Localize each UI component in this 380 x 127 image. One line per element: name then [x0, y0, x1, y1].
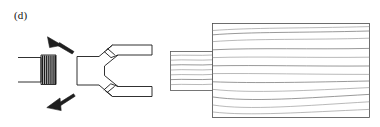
- rod-thread-ridges: [43, 55, 56, 84]
- clevis-upper-joint-facet: [108, 49, 115, 55]
- clevis-outline: [77, 45, 152, 97]
- screw-pointer-upper: [48, 37, 75, 54]
- clevis-fork-part: [77, 45, 152, 97]
- timber-block-part: [213, 24, 370, 118]
- clevis-lower-joint-facet: [107, 86, 115, 92]
- clevis-lower-joint-edge: [105, 91, 112, 97]
- pointer-upper-shaft: [58, 43, 74, 54]
- threaded-rod-part: [18, 55, 56, 85]
- tenon-part: [171, 52, 214, 91]
- screw-pointer-lower: [47, 94, 75, 111]
- technical-illustration: [0, 0, 380, 127]
- figure-panel-d: (d): [0, 0, 380, 127]
- rod-shank-outline: [18, 58, 41, 83]
- pointer-lower-shaft: [58, 94, 75, 106]
